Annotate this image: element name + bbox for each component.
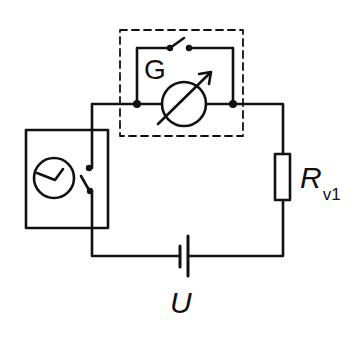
timer-contact-top: [86, 165, 92, 171]
source-label: U: [170, 288, 192, 318]
shunt-contact-left: [167, 45, 173, 51]
wire-bottom-right: [188, 200, 283, 256]
shunt-contact-right: [186, 45, 192, 51]
wire-bottom-left: [92, 191, 180, 256]
resistor-body: [275, 154, 290, 200]
timer-contact-bottom: [87, 188, 93, 194]
resistor-label-subscript: v1: [323, 185, 341, 204]
clock-hands: [37, 169, 63, 180]
wire-top-left: [92, 104, 162, 168]
timer-switch-blade: [81, 176, 89, 190]
resistor-label-main: R: [300, 161, 322, 194]
junction-dot-right: [229, 100, 237, 108]
resistor-label: Rv1: [300, 163, 341, 193]
galvanometer-label: G: [144, 56, 166, 84]
wire-top-right: [206, 104, 283, 154]
junction-dot-left: [133, 100, 141, 108]
circuit-diagram: G Rv1 U: [0, 0, 355, 362]
timer-box: [26, 130, 108, 228]
galvanometer-circle: [162, 82, 206, 126]
clock-icon: [34, 158, 74, 198]
